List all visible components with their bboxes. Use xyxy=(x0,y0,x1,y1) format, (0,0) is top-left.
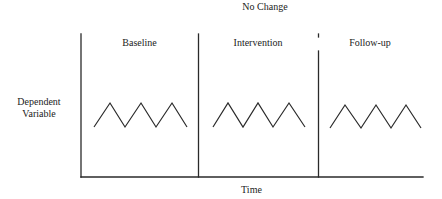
single-case-design-graph xyxy=(0,0,442,199)
data-line-follow-up xyxy=(330,105,421,128)
data-line-baseline xyxy=(94,103,187,127)
data-line-intervention xyxy=(213,103,305,127)
